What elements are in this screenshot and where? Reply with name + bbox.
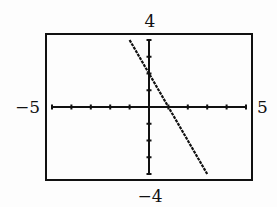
ymax-label: 4	[145, 11, 156, 31]
axes	[52, 40, 246, 174]
xmin-label: −5	[15, 97, 40, 117]
graph-window: 4 −4 −5 5	[0, 0, 277, 207]
ymin-label: −4	[137, 186, 162, 206]
xmax-label: 5	[257, 97, 268, 117]
